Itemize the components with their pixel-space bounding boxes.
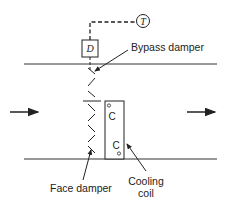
- damper-actuator: D: [82, 40, 98, 57]
- face-damper-label: Face damper: [50, 182, 112, 194]
- face-bypass-diagram: T D C C Bypass damper Face damper Coolin…: [0, 0, 231, 207]
- cooling-coil-label-line1: Cooling: [128, 175, 164, 187]
- face-damper-leader: [83, 150, 91, 180]
- face-damper-blades: [83, 101, 101, 153]
- control-signal-line: [90, 22, 137, 40]
- bypass-damper-blades: [88, 68, 95, 97]
- coil-mark-upper: C: [108, 111, 115, 122]
- cooling-coil-label-line2: coil: [138, 187, 154, 199]
- coil-mark-lower: C: [112, 140, 119, 151]
- bypass-damper-label: Bypass damper: [131, 41, 204, 53]
- thermostat: T: [137, 15, 150, 28]
- damper-actuator-symbol: D: [85, 43, 94, 54]
- bypass-damper-leader: [95, 50, 128, 71]
- cooling-coil-leader: [127, 144, 146, 171]
- cooling-coil: C C: [105, 101, 124, 159]
